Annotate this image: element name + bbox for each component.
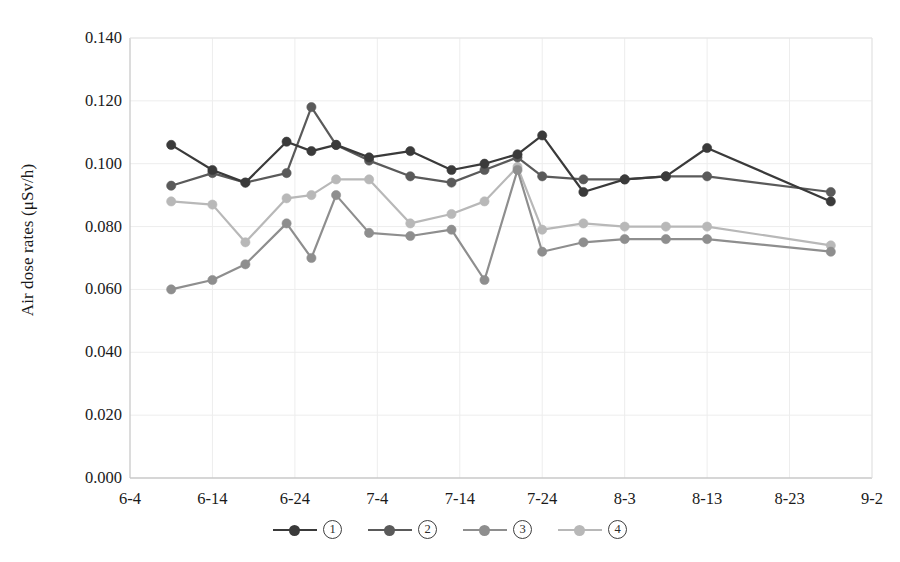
data-point	[406, 231, 415, 240]
legend-item-label: 4	[608, 520, 627, 539]
data-point	[661, 222, 670, 231]
data-point	[208, 200, 217, 209]
data-point	[282, 137, 291, 146]
data-point	[332, 140, 341, 149]
data-point	[241, 238, 250, 247]
data-point	[826, 247, 835, 256]
data-point	[167, 197, 176, 206]
data-point	[703, 222, 712, 231]
data-point	[282, 219, 291, 228]
legend-item-label: 1	[323, 520, 342, 539]
data-point	[661, 235, 670, 244]
data-point	[241, 260, 250, 269]
plot-area	[0, 0, 900, 562]
data-point	[447, 225, 456, 234]
data-point	[480, 275, 489, 284]
data-point	[620, 175, 629, 184]
series-4	[167, 162, 836, 250]
data-point	[447, 209, 456, 218]
data-point	[365, 153, 374, 162]
data-point	[208, 275, 217, 284]
data-point	[447, 178, 456, 187]
data-point	[480, 159, 489, 168]
legend-item[interactable]: 1	[273, 520, 342, 539]
legend-swatch-icon	[273, 523, 317, 537]
data-point	[620, 235, 629, 244]
data-point	[538, 247, 547, 256]
data-point	[282, 194, 291, 203]
chart-figure: Air dose rates (μSv/h) 0.0000.0200.0400.…	[0, 0, 900, 562]
legend-swatch-icon	[558, 523, 602, 537]
data-point	[513, 150, 522, 159]
data-point	[579, 219, 588, 228]
data-point	[406, 147, 415, 156]
data-point	[579, 187, 588, 196]
data-point	[167, 285, 176, 294]
data-point	[703, 172, 712, 181]
data-point	[167, 140, 176, 149]
data-point	[538, 131, 547, 140]
data-point	[282, 169, 291, 178]
data-point	[332, 175, 341, 184]
data-point	[365, 228, 374, 237]
data-point	[703, 235, 712, 244]
legend-swatch-icon	[463, 523, 507, 537]
data-point	[661, 172, 670, 181]
series-2	[167, 103, 836, 197]
data-point	[826, 187, 835, 196]
data-point	[332, 191, 341, 200]
data-point	[406, 219, 415, 228]
data-point	[365, 175, 374, 184]
data-point	[538, 172, 547, 181]
series-1	[167, 131, 836, 206]
data-point	[447, 165, 456, 174]
legend-swatch-icon	[368, 523, 412, 537]
data-point	[307, 191, 316, 200]
legend-item-label: 3	[513, 520, 532, 539]
data-point	[480, 197, 489, 206]
data-point	[241, 178, 250, 187]
data-point	[620, 222, 629, 231]
data-point	[167, 181, 176, 190]
data-point	[579, 238, 588, 247]
legend-item[interactable]: 3	[463, 520, 532, 539]
data-point	[579, 175, 588, 184]
data-point	[307, 253, 316, 262]
legend-item[interactable]: 4	[558, 520, 627, 539]
data-point	[538, 225, 547, 234]
series-line	[171, 135, 831, 201]
series-line	[171, 107, 831, 192]
data-point	[307, 103, 316, 112]
data-point	[307, 147, 316, 156]
legend-item[interactable]: 2	[368, 520, 437, 539]
data-point	[703, 143, 712, 152]
data-point	[406, 172, 415, 181]
data-point	[208, 165, 217, 174]
legend-item-label: 2	[418, 520, 437, 539]
data-point	[513, 165, 522, 174]
chart-legend: 1234	[0, 520, 900, 539]
data-point	[826, 197, 835, 206]
